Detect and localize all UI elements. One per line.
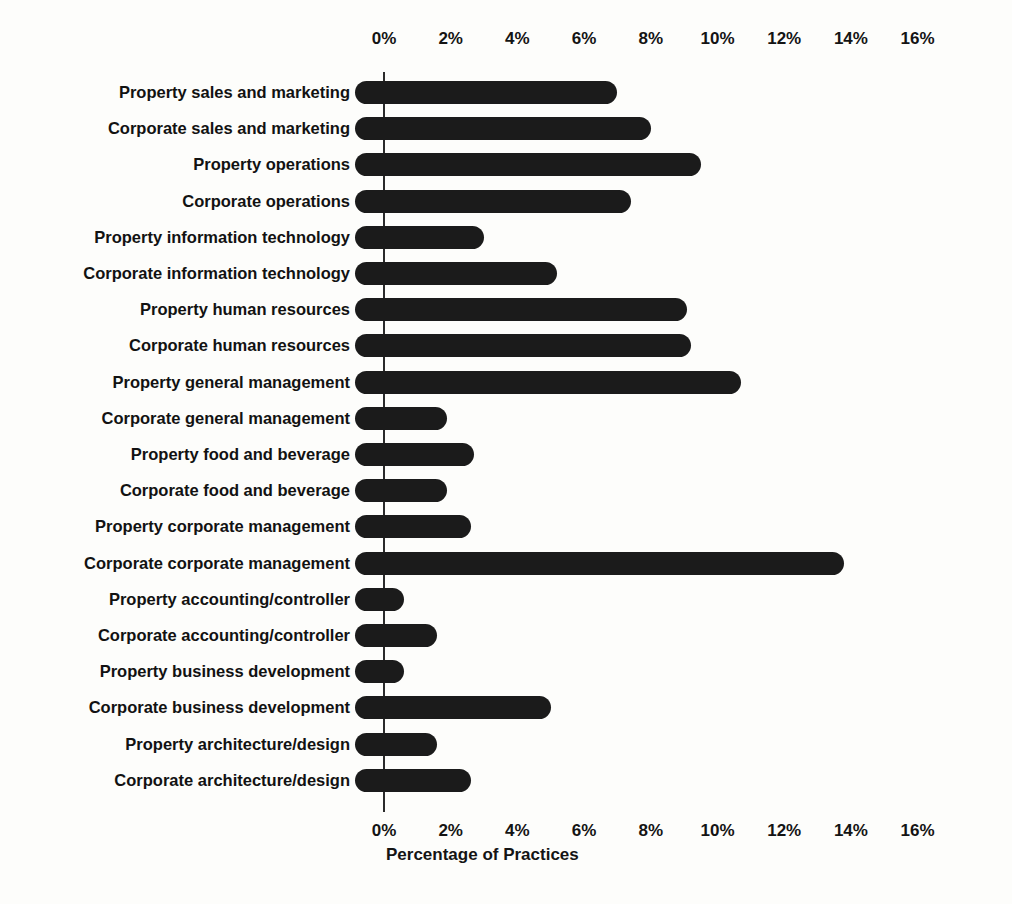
bar-row: Corporate information technology (0, 255, 1012, 291)
bar (355, 190, 631, 213)
category-label: Corporate sales and marketing (108, 110, 350, 146)
category-label: Property information technology (94, 219, 350, 255)
bar-row: Corporate human resources (0, 327, 1012, 363)
bar (355, 588, 404, 611)
category-label: Corporate food and beverage (120, 472, 350, 508)
x-tick-label-bottom: 16% (901, 820, 935, 842)
x-tick-label-top: 0% (372, 28, 397, 50)
bar-row: Corporate accounting/controller (0, 617, 1012, 653)
bar-row: Corporate corporate management (0, 545, 1012, 581)
category-label: Property architecture/design (125, 726, 350, 762)
bar-row: Property general management (0, 364, 1012, 400)
x-tick-label-top: 12% (767, 28, 801, 50)
bar (355, 153, 701, 176)
bar-row: Corporate architecture/design (0, 762, 1012, 798)
category-label: Corporate operations (182, 183, 350, 219)
bar (355, 262, 557, 285)
bar (355, 515, 471, 538)
x-tick-label-top: 14% (834, 28, 868, 50)
plot-area: Property sales and marketingCorporate sa… (0, 72, 1012, 812)
bar (355, 479, 447, 502)
category-label: Corporate corporate management (84, 545, 350, 581)
bar-row: Property sales and marketing (0, 74, 1012, 110)
bar-rows: Property sales and marketingCorporate sa… (0, 72, 1012, 812)
x-tick-label-bottom: 6% (572, 820, 597, 842)
bar-row: Property information technology (0, 219, 1012, 255)
bar-row: Property accounting/controller (0, 581, 1012, 617)
x-tick-label-top: 6% (572, 28, 597, 50)
category-label: Corporate information technology (83, 255, 350, 291)
category-label: Corporate accounting/controller (98, 617, 350, 653)
x-tick-label-top: 16% (901, 28, 935, 50)
bar (355, 81, 617, 104)
bar (355, 733, 437, 756)
x-tick-label-top: 2% (438, 28, 463, 50)
x-axis-bottom: 0%2%4%6%8%10%12%14%16% (0, 820, 1012, 842)
bar-row: Property human resources (0, 291, 1012, 327)
x-tick-label-bottom: 12% (767, 820, 801, 842)
category-label: Corporate architecture/design (114, 762, 350, 798)
category-label: Property human resources (140, 291, 350, 327)
category-label: Property accounting/controller (109, 581, 350, 617)
category-label: Corporate human resources (129, 327, 350, 363)
bar-row: Property architecture/design (0, 726, 1012, 762)
bar (355, 371, 741, 394)
bar-row: Corporate food and beverage (0, 472, 1012, 508)
x-tick-label-top: 8% (639, 28, 664, 50)
bar-row: Property business development (0, 653, 1012, 689)
bar (355, 660, 404, 683)
horizontal-bar-chart: 0%2%4%6%8%10%12%14%16% Property sales an… (0, 0, 1012, 904)
bar (355, 226, 484, 249)
x-tick-label-bottom: 0% (372, 820, 397, 842)
bar (355, 334, 691, 357)
bar-row: Corporate operations (0, 183, 1012, 219)
bar-row: Corporate general management (0, 400, 1012, 436)
bar-row: Property food and beverage (0, 436, 1012, 472)
x-axis-top: 0%2%4%6%8%10%12%14%16% (0, 28, 1012, 50)
bar (355, 552, 844, 575)
bar-row: Corporate business development (0, 689, 1012, 725)
category-label: Property food and beverage (131, 436, 350, 472)
x-tick-label-bottom: 14% (834, 820, 868, 842)
x-tick-label-bottom: 4% (505, 820, 530, 842)
bar (355, 298, 687, 321)
category-label: Property sales and marketing (119, 74, 350, 110)
bar (355, 696, 551, 719)
category-label: Corporate business development (89, 689, 350, 725)
bar (355, 443, 474, 466)
category-label: Property corporate management (95, 508, 350, 544)
x-tick-label-top: 10% (700, 28, 734, 50)
bar (355, 769, 471, 792)
x-axis-title: Percentage of Practices (386, 845, 579, 865)
bar (355, 407, 447, 430)
category-label: Property general management (113, 364, 351, 400)
x-tick-label-bottom: 10% (700, 820, 734, 842)
category-label: Corporate general management (102, 400, 350, 436)
bar-row: Corporate sales and marketing (0, 110, 1012, 146)
bar-row: Property operations (0, 146, 1012, 182)
category-label: Property operations (193, 146, 350, 182)
bar (355, 117, 651, 140)
category-label: Property business development (100, 653, 350, 689)
bar-row: Property corporate management (0, 508, 1012, 544)
x-tick-label-top: 4% (505, 28, 530, 50)
x-tick-label-bottom: 8% (639, 820, 664, 842)
bar (355, 624, 437, 647)
x-tick-label-bottom: 2% (438, 820, 463, 842)
